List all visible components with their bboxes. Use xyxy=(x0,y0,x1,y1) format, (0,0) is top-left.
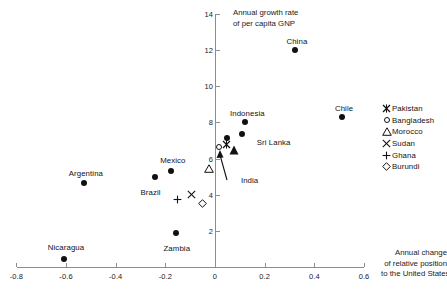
y-tick-label: 2 xyxy=(209,226,213,235)
x-tick-label: -0.4 xyxy=(109,272,122,281)
x-tick-label: -0.2 xyxy=(159,272,172,281)
open-diamond-marker xyxy=(382,162,392,172)
legend-symbol xyxy=(381,138,392,149)
data-point-label: India xyxy=(241,175,258,184)
legend-item-burundi[interactable]: Burundi xyxy=(381,161,434,173)
legend-item-morocco[interactable]: Morocco xyxy=(381,126,434,138)
y-tick-mark xyxy=(216,195,220,196)
filled-circle-marker[interactable] xyxy=(61,256,71,266)
legend-symbol xyxy=(381,103,392,114)
open-circle-marker[interactable] xyxy=(216,144,226,154)
legend: PakistanBangladeshMoroccoSudanGhanaBurun… xyxy=(381,103,434,173)
open-diamond-marker[interactable] xyxy=(198,199,208,209)
legend-label: Bangladesh xyxy=(392,116,434,125)
data-point-label: Chile xyxy=(335,103,353,112)
x-tick-mark xyxy=(314,263,315,267)
x-tick-mark xyxy=(364,263,365,267)
y-tick-mark xyxy=(216,14,220,15)
legend-label: Morocco xyxy=(392,127,423,136)
legend-label: Ghana xyxy=(392,151,416,160)
x-axis-line xyxy=(17,267,364,268)
x-tick-label: -0.6 xyxy=(59,272,72,281)
x-tick-label: 0.2 xyxy=(259,272,270,281)
y-axis-title-line-1: Annual growth rate xyxy=(233,8,298,19)
data-point-label: China xyxy=(286,36,307,45)
x-tick-label: -0.8 xyxy=(10,272,23,281)
x-tick-label: 0.4 xyxy=(309,272,320,281)
filled-circle-marker[interactable] xyxy=(292,47,302,57)
x-tick-mark xyxy=(16,263,17,267)
filled-circle-marker[interactable] xyxy=(81,180,91,190)
x-tick-label: 0 xyxy=(213,272,217,281)
x-axis-title-line-3: to the United States xyxy=(381,269,447,280)
y-tick-mark xyxy=(216,86,220,87)
filled-circle-marker[interactable] xyxy=(239,131,249,141)
x-tick-mark xyxy=(265,263,266,267)
x-cross-marker[interactable] xyxy=(186,190,196,200)
legend-symbol xyxy=(381,161,392,172)
legend-symbol xyxy=(381,115,392,126)
scatter-plot-figure: -0.8-0.6-0.4-0.200.20.40.6 2468101214 An… xyxy=(0,0,447,294)
y-tick-label: 12 xyxy=(204,46,213,55)
plus-marker[interactable] xyxy=(173,195,183,205)
data-point-label: Brazil xyxy=(141,188,161,197)
legend-item-pakistan[interactable]: Pakistan xyxy=(381,103,434,115)
legend-symbol xyxy=(381,150,392,161)
y-tick-mark xyxy=(216,231,220,232)
open-circle-marker xyxy=(382,115,392,125)
legend-symbol xyxy=(381,126,392,137)
y-tick-label: 10 xyxy=(204,82,213,91)
y-axis-title: Annual growth rate of per capita GNP xyxy=(233,8,298,29)
filled-circle-marker[interactable] xyxy=(168,168,178,178)
filled-circle-marker[interactable] xyxy=(339,114,349,124)
legend-label: Burundi xyxy=(392,162,420,171)
x-axis-title: Annual change of relative position to th… xyxy=(381,248,447,280)
x-cross-marker xyxy=(382,139,392,149)
y-tick-label: 14 xyxy=(204,9,213,18)
open-triangle-marker[interactable] xyxy=(204,164,214,174)
x-axis-title-line-2: of relative position xyxy=(381,259,447,270)
y-tick-label: 4 xyxy=(209,190,213,199)
x-tick-mark xyxy=(165,263,166,267)
legend-item-ghana[interactable]: Ghana xyxy=(381,149,434,161)
y-tick-label: 8 xyxy=(209,118,213,127)
data-point-label: Argentina xyxy=(69,168,103,177)
x-tick-mark xyxy=(116,263,117,267)
filled-circle-marker[interactable] xyxy=(152,174,162,184)
y-tick-label: 6 xyxy=(209,154,213,163)
legend-item-sudan[interactable]: Sudan xyxy=(381,138,434,150)
plus-marker xyxy=(382,150,392,160)
x-tick-label: 0.6 xyxy=(359,272,370,281)
legend-label: Pakistan xyxy=(392,104,423,113)
x-tick-mark xyxy=(215,263,216,267)
y-tick-mark xyxy=(216,159,220,160)
open-triangle-marker xyxy=(382,127,392,137)
data-point-label: Sri Lanka xyxy=(257,137,291,146)
star-marker xyxy=(382,104,392,114)
data-point-label: Nicaragua xyxy=(48,242,84,251)
x-axis-title-line-1: Annual change xyxy=(381,248,447,259)
y-tick-mark xyxy=(216,50,220,51)
filled-circle-marker[interactable] xyxy=(242,119,252,129)
y-axis-title-line-2: of per capita GNP xyxy=(233,19,298,30)
data-point-label: Mexico xyxy=(160,156,185,165)
legend-item-bangladesh[interactable]: Bangladesh xyxy=(381,115,434,127)
data-point-label: Zambia xyxy=(163,244,190,253)
y-tick-mark xyxy=(216,122,220,123)
legend-label: Sudan xyxy=(392,139,415,148)
filled-circle-marker[interactable] xyxy=(173,230,183,240)
data-point-label: Indonesia xyxy=(230,109,265,118)
